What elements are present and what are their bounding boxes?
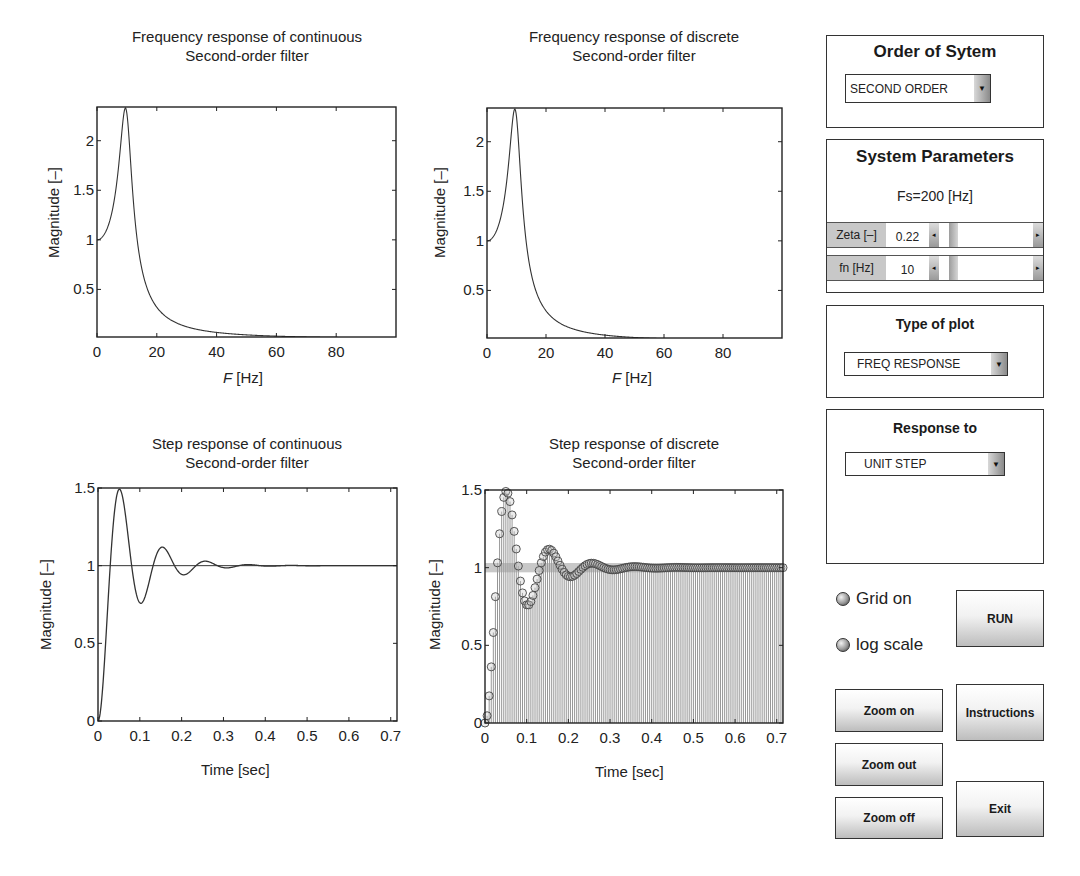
freq-cont-ylabel: Magnitude [–] [45,163,62,263]
exit-button[interactable]: Exit [956,781,1044,837]
response-to-dropdown[interactable]: UNIT STEP ▼ [845,452,1005,476]
xlabel-symbol: F [223,369,232,386]
freq-disc-title: Frequency response of discrete Second-or… [486,27,782,65]
title-line: Frequency response of discrete [486,27,782,46]
freq-cont-xlabel: F [Hz] [223,369,263,386]
response-to-panel: Response to UNIT STEP ▼ [826,409,1044,564]
system-parameters-title: System Parameters [827,147,1043,167]
svg-text:20: 20 [148,343,165,360]
svg-text:20: 20 [538,344,555,361]
svg-text:0.5: 0.5 [463,281,484,298]
zeta-increment-arrow-icon[interactable]: ▸ [1033,223,1043,247]
freq-disc-xlabel: F [Hz] [612,369,652,386]
svg-text:0.4: 0.4 [641,729,662,746]
svg-text:0.6: 0.6 [338,727,359,744]
system-parameters-panel: System Parameters Fs=200 [Hz] Zeta [–] 0… [826,139,1044,293]
grid-on-label: Grid on [856,589,912,609]
zeta-decrement-arrow-icon[interactable]: ◂ [929,223,939,247]
svg-text:0.2: 0.2 [558,729,579,746]
fn-label: fn [Hz] [827,256,886,280]
zeta-slider-track[interactable] [939,223,1033,247]
zoom-out-button[interactable]: Zoom out [835,743,943,786]
title-line: Step response of continuous [97,434,397,453]
svg-text:0.3: 0.3 [213,727,234,744]
freq-disc-ylabel: Magnitude [–] [431,163,448,263]
svg-text:1: 1 [474,559,482,576]
svg-text:1: 1 [476,232,484,249]
zoom-on-button[interactable]: Zoom on [835,689,943,732]
svg-text:1: 1 [86,231,94,248]
svg-text:0.6: 0.6 [725,729,746,746]
xlabel-symbol: F [612,369,621,386]
svg-text:0.5: 0.5 [461,636,482,653]
plot-type-dropdown-value: FREQ RESPONSE [857,357,960,371]
xlabel-unit: [Hz] [621,369,652,386]
svg-text:0.5: 0.5 [73,280,94,297]
title-line: Step response of discrete [486,434,782,453]
response-to-title: Response to [827,420,1043,436]
title-line: Frequency response of continuous [97,27,397,46]
fn-decrement-arrow-icon[interactable]: ◂ [929,256,939,280]
svg-text:0.7: 0.7 [380,727,401,744]
fn-slider-track[interactable] [939,256,1033,280]
zoom-off-button[interactable]: Zoom off [835,797,943,839]
chevron-down-icon[interactable]: ▼ [974,75,990,102]
order-of-system-panel: Order of Sytem SECOND ORDER ▼ [826,35,1044,128]
svg-text:80: 80 [328,343,345,360]
log-scale-label: log scale [856,635,923,655]
fn-slider-thumb[interactable] [949,256,958,280]
step-cont-xlabel: Time [sec] [201,761,270,778]
svg-text:0.5: 0.5 [74,634,95,651]
fn-value-field[interactable]: 10 [886,256,929,280]
title-line: Second-order filter [97,453,397,472]
svg-text:40: 40 [597,344,614,361]
svg-text:1.5: 1.5 [73,181,94,198]
grid-on-radio[interactable]: Grid on [836,589,912,609]
step-disc-ylabel: Magnitude [–] [426,555,443,655]
title-line: Second-order filter [97,46,397,65]
svg-text:0.5: 0.5 [297,727,318,744]
svg-text:0.7: 0.7 [766,729,787,746]
fn-increment-arrow-icon[interactable]: ▸ [1033,256,1043,280]
radio-button-icon[interactable] [836,638,850,652]
step-disc-title: Step response of discrete Second-order f… [486,434,782,472]
svg-text:0.5: 0.5 [683,729,704,746]
response-to-dropdown-value: UNIT STEP [864,457,926,471]
order-dropdown-value: SECOND ORDER [850,82,948,96]
chevron-down-icon[interactable]: ▼ [988,453,1004,475]
svg-text:40: 40 [208,343,225,360]
radio-button-icon[interactable] [836,592,850,606]
title-line: Second-order filter [486,46,782,65]
svg-text:1.5: 1.5 [461,481,482,498]
zeta-value-field[interactable]: 0.22 [886,223,929,247]
svg-text:0.1: 0.1 [516,729,537,746]
svg-text:0: 0 [93,343,101,360]
order-of-system-title: Order of Sytem [827,42,1043,62]
svg-text:0.1: 0.1 [129,727,150,744]
log-scale-radio[interactable]: log scale [836,635,923,655]
step-cont-ylabel: Magnitude [–] [37,555,54,655]
title-line: Second-order filter [486,453,782,472]
zeta-row: Zeta [–] 0.22 ◂ ▸ [827,222,1043,248]
xlabel-unit: [Hz] [232,369,263,386]
zeta-label: Zeta [–] [827,223,886,247]
svg-text:60: 60 [656,344,673,361]
step-cont-title: Step response of continuous Second-order… [97,434,397,472]
instructions-button[interactable]: Instructions [956,684,1044,741]
svg-text:0: 0 [481,729,489,746]
svg-text:2: 2 [86,132,94,149]
chevron-down-icon[interactable]: ▼ [991,353,1007,375]
freq-cont-title: Frequency response of continuous Second-… [97,27,397,65]
svg-text:1: 1 [87,557,95,574]
run-button[interactable]: RUN [956,590,1044,647]
zeta-slider-thumb[interactable] [949,223,958,247]
svg-text:0: 0 [474,714,482,731]
order-dropdown[interactable]: SECOND ORDER ▼ [845,74,991,103]
svg-text:0.3: 0.3 [600,729,621,746]
svg-text:0: 0 [87,712,95,729]
type-of-plot-title: Type of plot [827,316,1043,332]
svg-text:0: 0 [94,727,102,744]
plot-type-dropdown[interactable]: FREQ RESPONSE ▼ [844,352,1008,376]
svg-text:0.2: 0.2 [171,727,192,744]
svg-text:2: 2 [476,133,484,150]
